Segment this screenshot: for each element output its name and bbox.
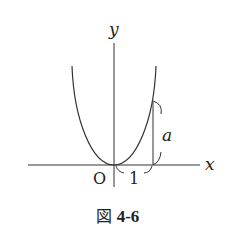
- function-graph: y x O 1 a: [0, 0, 235, 233]
- caption-prefix: 図: [96, 207, 112, 226]
- figure-caption: 図 4-6: [0, 203, 235, 227]
- caption-number: 4-6: [117, 207, 140, 226]
- x-axis-label: x: [205, 154, 215, 174]
- unit-length-label: 1: [129, 169, 139, 188]
- height-a-label: a: [162, 125, 172, 145]
- vertical-brace: [153, 101, 161, 165]
- origin-label: O: [93, 169, 106, 188]
- y-axis-label: y: [108, 19, 119, 39]
